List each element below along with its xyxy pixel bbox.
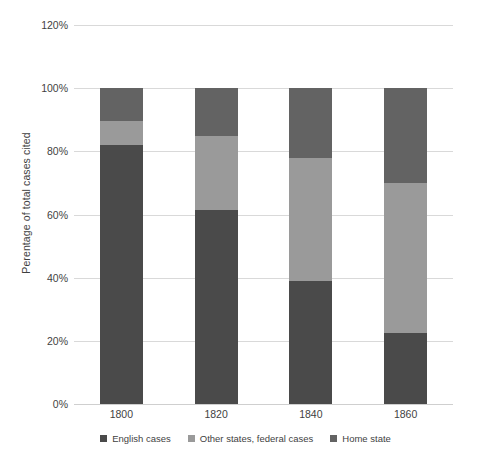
bar-segment[interactable] <box>100 121 143 145</box>
bar-segment[interactable] <box>289 88 332 157</box>
bar-stack[interactable] <box>289 88 332 404</box>
legend-item[interactable]: Other states, federal cases <box>188 433 314 444</box>
x-tick-label: 1860 <box>361 408 451 420</box>
y-tick-label: 120% <box>16 19 68 31</box>
bar-group[interactable] <box>100 25 143 404</box>
legend-swatch-icon <box>100 435 107 442</box>
legend-label: English cases <box>112 433 171 444</box>
bar-segment[interactable] <box>195 88 238 135</box>
bar-segment[interactable] <box>384 183 427 333</box>
bar-segment[interactable] <box>195 210 238 404</box>
y-tick-label: 60% <box>16 209 68 221</box>
bar-segment[interactable] <box>100 145 143 404</box>
bar-segment[interactable] <box>289 158 332 281</box>
legend-item[interactable]: English cases <box>100 433 171 444</box>
y-tick-label: 40% <box>16 272 68 284</box>
bar-stack[interactable] <box>195 88 238 404</box>
bar-group[interactable] <box>195 25 238 404</box>
bar-segment[interactable] <box>384 333 427 404</box>
stacked-bar-chart: Perentage of total cases cited 120%100%8… <box>0 0 491 466</box>
legend-swatch-icon <box>188 435 195 442</box>
x-tick-label: 1800 <box>76 408 166 420</box>
y-tick-label: 80% <box>16 145 68 157</box>
bar-segment[interactable] <box>384 88 427 183</box>
bars-layer <box>74 25 453 404</box>
bar-segment[interactable] <box>100 88 143 121</box>
y-tick-label: 20% <box>16 335 68 347</box>
x-axis-tick-labels: 1800182018401860 <box>74 408 453 426</box>
y-axis-tick-labels: 120%100%80%60%40%20%0% <box>8 25 68 404</box>
bar-stack[interactable] <box>384 88 427 404</box>
y-tick-label: 100% <box>16 82 68 94</box>
bar-segment[interactable] <box>195 136 238 210</box>
gridline-0 <box>74 404 453 405</box>
chart-legend: English casesOther states, federal cases… <box>0 433 491 444</box>
legend-swatch-icon <box>330 435 337 442</box>
bar-segment[interactable] <box>289 281 332 404</box>
legend-label: Other states, federal cases <box>200 433 314 444</box>
bar-stack[interactable] <box>100 88 143 404</box>
x-tick-label: 1820 <box>171 408 261 420</box>
legend-item[interactable]: Home state <box>330 433 391 444</box>
bar-group[interactable] <box>384 25 427 404</box>
legend-label: Home state <box>342 433 391 444</box>
bar-group[interactable] <box>289 25 332 404</box>
y-tick-label: 0% <box>16 398 68 410</box>
x-tick-label: 1840 <box>266 408 356 420</box>
